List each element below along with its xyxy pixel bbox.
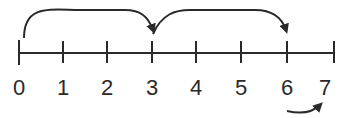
- tick-label-1: 1: [57, 76, 69, 100]
- jump-arrow-3-to-6: [153, 10, 286, 34]
- tick-label-3: 3: [146, 76, 158, 100]
- jump-arrow-0-to-3: [24, 10, 153, 38]
- tick-label-6: 6: [281, 76, 293, 100]
- tick-label-2: 2: [101, 76, 113, 100]
- number-line-diagram: [0, 0, 362, 118]
- tick-label-0: 0: [13, 76, 25, 100]
- tick-label-4: 4: [190, 76, 202, 100]
- jump-arrow-6-to-7: [287, 105, 320, 113]
- tick-label-7: 7: [319, 76, 331, 100]
- tick-label-5: 5: [235, 76, 247, 100]
